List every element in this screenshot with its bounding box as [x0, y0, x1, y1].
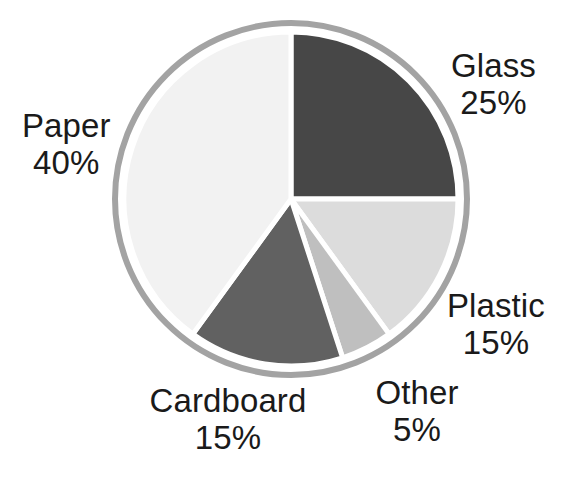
- slice-label-other-value: 5%: [352, 412, 482, 449]
- slice-label-cardboard: Cardboard 15%: [128, 383, 328, 457]
- pie-slice-glass[interactable]: [291, 32, 458, 199]
- slice-label-paper-value: 40%: [22, 145, 111, 182]
- slice-label-glass-name: Glass: [451, 48, 536, 85]
- pie-slice-group: [124, 32, 458, 366]
- slice-label-paper: Paper 40%: [22, 108, 111, 182]
- pie-chart-figure: Glass 25% Paper 40% Plastic 15% Cardboar…: [0, 0, 577, 490]
- slice-label-other: Other 5%: [352, 375, 482, 449]
- slice-label-paper-name: Paper: [22, 108, 111, 145]
- slice-label-other-name: Other: [352, 375, 482, 412]
- slice-label-plastic-value: 15%: [447, 325, 545, 362]
- slice-label-cardboard-name: Cardboard: [128, 383, 328, 420]
- slice-label-cardboard-value: 15%: [128, 420, 328, 457]
- slice-label-glass-value: 25%: [451, 85, 536, 122]
- slice-label-glass: Glass 25%: [451, 48, 536, 122]
- slice-label-plastic-name: Plastic: [447, 288, 545, 325]
- slice-label-plastic: Plastic 15%: [447, 288, 545, 362]
